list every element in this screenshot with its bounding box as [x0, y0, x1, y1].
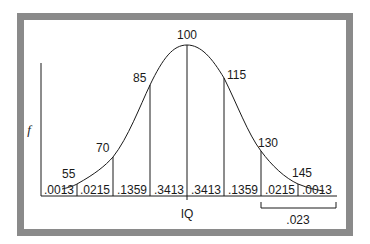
y-axis-label: f [27, 122, 33, 137]
bell-curve [62, 45, 324, 191]
proportion-label: .3413 [191, 183, 221, 197]
x-axis-label: IQ [181, 207, 194, 221]
proportion-label: .1359 [228, 183, 258, 197]
tail-bracket [261, 202, 336, 208]
marker-label-70: 70 [96, 141, 110, 155]
proportion-label: .0215 [265, 183, 295, 197]
proportion-label: .0013 [44, 183, 74, 197]
proportion-label: .0013 [302, 183, 332, 197]
normal-curve-chart: 55 70 85 100 115 130 145 .0013 .0215 .13… [0, 0, 370, 244]
marker-label-145: 145 [292, 166, 312, 180]
proportion-label: .3413 [154, 183, 184, 197]
marker-label-55: 55 [62, 167, 76, 181]
marker-label-100: 100 [177, 28, 197, 42]
marker-label-115: 115 [227, 68, 246, 82]
marker-label-85: 85 [133, 71, 147, 85]
proportion-label: .0215 [80, 183, 110, 197]
marker-label-130: 130 [258, 136, 278, 150]
proportion-label: .1359 [117, 183, 147, 197]
tail-bracket-label: .023 [286, 213, 310, 227]
